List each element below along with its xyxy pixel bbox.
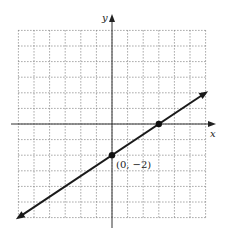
y-axis-arrow-icon	[109, 14, 115, 22]
data-point	[156, 121, 162, 127]
point-label: (0, −2)	[116, 159, 151, 170]
line-arrow-start-icon	[16, 211, 25, 219]
data-point	[109, 152, 115, 158]
y-axis-label: y	[101, 12, 108, 23]
x-axis-arrow-icon	[208, 121, 216, 127]
x-axis-label: x	[210, 128, 216, 139]
axes: x y	[11, 12, 216, 228]
coordinate-plane: x y (0, −2)	[0, 0, 226, 240]
line-arrow-end-icon	[199, 91, 208, 99]
